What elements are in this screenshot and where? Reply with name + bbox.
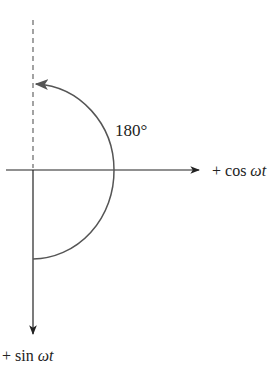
angle-label: 180° (115, 121, 147, 140)
phasor-diagram: 180° + cos ωt + sin ωt (0, 0, 280, 376)
cos-axis-label: + cos ωt (212, 162, 267, 179)
sin-axis-label: + sin ωt (2, 347, 54, 364)
rotation-arc-arrow (33, 84, 114, 259)
